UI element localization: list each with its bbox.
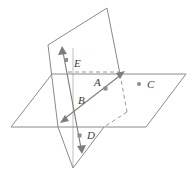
intersection-line-group <box>60 71 125 123</box>
vertical-plane-right-edge-lower-hidden <box>120 74 127 112</box>
vertical-plane-bottom-left-edge <box>58 127 73 168</box>
point-dot-e <box>64 58 68 62</box>
vertical-plane-right-edge-upper <box>107 8 120 74</box>
point-labels: A B C D E <box>73 57 155 141</box>
point-label-c: C <box>147 78 155 90</box>
vertical-plane-left-edge <box>48 45 58 127</box>
geometry-diagram: A B C D E <box>0 0 195 176</box>
point-label-b: B <box>78 94 85 106</box>
geometry-canvas: A B C D E <box>0 0 195 176</box>
point-label-e: E <box>73 57 81 69</box>
point-dot-d <box>78 134 82 138</box>
vertical-plane-top-edge <box>48 8 107 45</box>
point-label-d: D <box>86 129 95 141</box>
point-dots <box>64 58 141 138</box>
point-label-a: A <box>93 76 101 88</box>
arrowhead-top <box>58 46 67 55</box>
vertical-plane-bottom-right-edge-hidden <box>104 112 127 127</box>
horizontal-plane-left-edge <box>11 74 52 127</box>
point-dot-c <box>137 82 141 86</box>
vertical-plane <box>48 8 127 168</box>
point-dot-a <box>104 87 108 91</box>
